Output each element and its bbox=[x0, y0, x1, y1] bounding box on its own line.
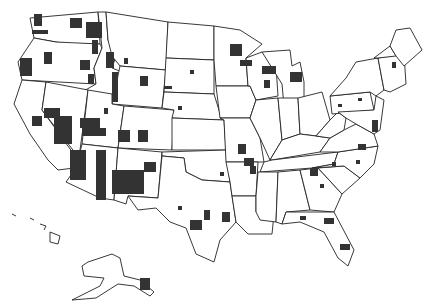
alaska-hawaii-insets-layer bbox=[12, 214, 154, 300]
highlighted-county bbox=[250, 166, 256, 174]
highlighted-county bbox=[230, 44, 242, 56]
highlighted-county bbox=[82, 128, 106, 136]
state-mississippi bbox=[256, 172, 278, 222]
state-wyoming bbox=[112, 66, 166, 108]
highlighted-county bbox=[190, 220, 202, 230]
highlighted-county bbox=[340, 244, 350, 250]
highlighted-county bbox=[164, 86, 172, 89]
highlighted-county bbox=[240, 60, 252, 66]
highlighted-county bbox=[264, 80, 270, 88]
state-montana bbox=[106, 12, 168, 70]
highlighted-county bbox=[96, 150, 106, 200]
highlighted-county bbox=[372, 120, 378, 132]
highlighted-county bbox=[222, 212, 230, 222]
highlighted-county bbox=[140, 76, 148, 86]
highlighted-county bbox=[92, 40, 98, 54]
highlighted-county bbox=[86, 22, 102, 38]
highlighted-county bbox=[32, 116, 42, 126]
highlighted-county bbox=[178, 106, 182, 110]
state-indiana bbox=[278, 98, 300, 140]
state-boundaries-layer bbox=[14, 12, 422, 266]
highlighted-county bbox=[54, 116, 72, 144]
highlighted-county bbox=[310, 168, 318, 176]
highlighted-county bbox=[356, 160, 360, 164]
highlighted-county bbox=[262, 66, 276, 74]
highlighted-county bbox=[112, 72, 118, 102]
highlighted-county bbox=[140, 278, 150, 290]
highlighted-county bbox=[138, 130, 148, 142]
highlighted-county bbox=[290, 72, 302, 82]
highlighted-county bbox=[238, 144, 246, 154]
highlighted-county bbox=[124, 58, 128, 64]
highlighted-county bbox=[220, 172, 224, 176]
highlighted-county bbox=[324, 218, 334, 224]
state-kansas bbox=[172, 118, 226, 150]
highlighted-county bbox=[118, 130, 130, 142]
state-florida bbox=[282, 212, 354, 266]
inset-hawaii bbox=[12, 214, 60, 244]
highlighted-county bbox=[300, 216, 306, 220]
highlighted-county bbox=[20, 58, 32, 76]
highlighted-county bbox=[104, 108, 108, 114]
highlighted-county bbox=[178, 206, 182, 210]
highlighted-county bbox=[332, 162, 336, 166]
highlighted-county bbox=[88, 74, 94, 84]
us-county-map bbox=[0, 0, 428, 306]
highlighted-county bbox=[34, 14, 42, 26]
highlighted-county bbox=[204, 210, 210, 220]
highlighted-county bbox=[392, 62, 396, 68]
highlighted-county bbox=[358, 98, 362, 101]
highlighted-county bbox=[144, 162, 156, 172]
highlighted-county bbox=[358, 144, 366, 150]
state-iowa bbox=[216, 86, 256, 118]
highlighted-county bbox=[44, 52, 52, 64]
highlighted-county bbox=[190, 70, 194, 74]
highlighted-county bbox=[80, 118, 100, 128]
map-canvas bbox=[0, 0, 428, 306]
highlighted-county bbox=[106, 52, 114, 68]
highlighted-county bbox=[112, 170, 144, 194]
state-colorado bbox=[118, 106, 174, 150]
state-north-dakota bbox=[166, 22, 214, 60]
highlighted-county bbox=[320, 184, 324, 188]
highlighted-county bbox=[338, 104, 342, 107]
highlighted-county bbox=[32, 30, 48, 34]
highlighted-county bbox=[80, 60, 90, 70]
highlighted-county bbox=[70, 150, 86, 180]
inset-alaska bbox=[72, 254, 154, 300]
highlighted-county bbox=[70, 18, 82, 28]
highlighted-county bbox=[244, 158, 254, 166]
state-new-york bbox=[330, 58, 384, 96]
